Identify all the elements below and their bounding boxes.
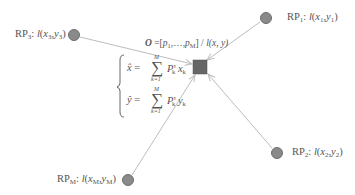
- rpM-label: RPM: l(xM,yM): [57, 173, 116, 186]
- x-sum-term: Pτk xk: [167, 62, 186, 75]
- y-sum-term: Pτk yk: [167, 94, 186, 107]
- rpM-node-icon: [123, 175, 134, 186]
- x-estimate-row: x̂ =: [127, 62, 140, 73]
- y-sum-lower: k=1: [151, 108, 161, 114]
- rp3-label: RP3: l(x3,y3): [15, 28, 66, 41]
- observation-label: O =[p1,…,pM] / l(x, y): [145, 38, 228, 49]
- edge-rp2-target: [208, 74, 272, 148]
- x-sum-lower: k=1: [151, 76, 161, 82]
- formula-brace-icon: [117, 55, 124, 117]
- rp1-label: RP1: l(x1,y1): [287, 11, 338, 24]
- y-sum-icon: ∑: [151, 91, 163, 108]
- rp3-node-icon: [69, 30, 80, 41]
- rp2-label: RP2: l(x2,y2): [292, 146, 343, 159]
- y-estimate-row: ŷ =: [127, 94, 140, 105]
- x-sum-icon: ∑: [151, 59, 163, 76]
- estimate-formula: x̂ = M ∑ k=1 Pτk xk ŷ = M ∑ k=1 Pτk yk: [127, 54, 197, 118]
- rp2-node-icon: [272, 148, 283, 159]
- rp1-node-icon: [261, 13, 272, 24]
